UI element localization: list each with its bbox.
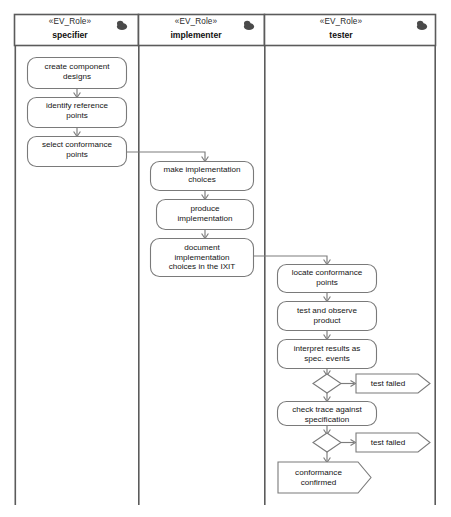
- node-test-failed-2[interactable]: [356, 433, 430, 452]
- diagram-canvas: [0, 0, 451, 517]
- node-locate-conformance-points[interactable]: [278, 265, 377, 293]
- lane-header-specifier: [15, 15, 139, 46]
- node-select-conformance-points[interactable]: [28, 137, 127, 167]
- node-interpret-results[interactable]: [278, 340, 377, 369]
- node-check-trace[interactable]: [278, 402, 377, 426]
- lane-header-implementer: [139, 15, 265, 46]
- node-test-failed-1[interactable]: [356, 374, 430, 393]
- node-decision-2[interactable]: [313, 433, 341, 452]
- node-create-component-designs[interactable]: [28, 58, 127, 89]
- node-make-implementation-choices[interactable]: [151, 162, 254, 191]
- edge-select-to-make: [126, 152, 205, 161]
- node-test-and-observe-product[interactable]: [278, 302, 377, 331]
- node-identify-reference-points[interactable]: [28, 98, 127, 128]
- node-document-implementation[interactable]: [151, 239, 254, 277]
- node-decision-1[interactable]: [313, 374, 341, 393]
- node-produce-implementation[interactable]: [157, 200, 254, 230]
- lane-header-tester: [265, 15, 436, 46]
- node-conformance-confirmed[interactable]: [278, 462, 371, 493]
- activity-diagram: «EV_Role» specifier «EV_Role» implemente…: [0, 0, 451, 517]
